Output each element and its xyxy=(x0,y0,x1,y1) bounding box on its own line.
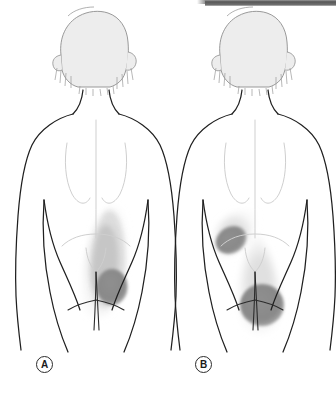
figure-b-lower-trigger-point xyxy=(240,284,284,326)
figure-a-group xyxy=(16,7,177,352)
figure-a-hair xyxy=(53,7,136,96)
figure-a-trigger-point xyxy=(97,269,128,305)
figure-b-hair xyxy=(212,7,295,96)
panel-label-b: B xyxy=(195,356,212,373)
figure-root: A B xyxy=(0,0,336,402)
panel-label-a: A xyxy=(36,356,53,373)
anatomy-illustration xyxy=(0,0,336,402)
scanner-bar xyxy=(205,0,336,6)
figure-b-group xyxy=(175,7,336,352)
